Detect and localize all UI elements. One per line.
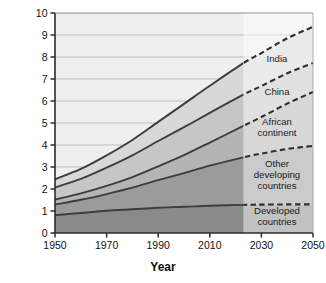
chart-svg: 012345678910195019701990201020302050 Ind…	[0, 0, 326, 283]
legend-label-line: countries	[258, 216, 297, 227]
y-tick-label-6: 6	[42, 95, 48, 107]
x-axis-title: Year	[0, 260, 326, 274]
legend-label-line: continent	[258, 127, 297, 138]
y-tick-label-1: 1	[42, 205, 48, 217]
x-tick-label-1950: 1950	[43, 239, 67, 251]
legend-label-line: Other	[265, 158, 290, 169]
legend-label-line: developing	[254, 169, 300, 180]
y-tick-label-0: 0	[42, 227, 48, 239]
y-tick-label-10: 10	[36, 7, 48, 19]
y-tick-label-2: 2	[42, 183, 48, 195]
x-tick-label-2030: 2030	[250, 239, 274, 251]
y-tick-label-5: 5	[42, 117, 48, 129]
legend-label-line: African	[262, 116, 292, 127]
x-tick-label-1990: 1990	[147, 239, 171, 251]
y-tick-label-3: 3	[42, 161, 48, 173]
y-tick-label-9: 9	[42, 29, 48, 41]
legend-label-line: India	[267, 53, 288, 64]
y-tick-label-7: 7	[42, 73, 48, 85]
x-tick-label-2010: 2010	[198, 239, 222, 251]
legend-label-developed: Developedcountries	[254, 205, 300, 227]
legend-label-line: countries	[258, 180, 297, 191]
legend-label-line: Developed	[254, 205, 300, 216]
y-tick-label-8: 8	[42, 51, 48, 63]
legend-label-african: Africancontinent	[258, 116, 297, 138]
y-tick-label-4: 4	[42, 139, 48, 151]
x-tick-label-2050: 2050	[301, 239, 325, 251]
legend-label-india: India	[267, 53, 288, 64]
x-axis-title-text: Year	[150, 260, 175, 274]
legend-label-china: China	[264, 86, 290, 97]
legend-label-line: China	[264, 86, 290, 97]
population-stacked-area-chart: Human population size (billions) Year 01…	[0, 0, 326, 283]
x-tick-label-1970: 1970	[95, 239, 119, 251]
